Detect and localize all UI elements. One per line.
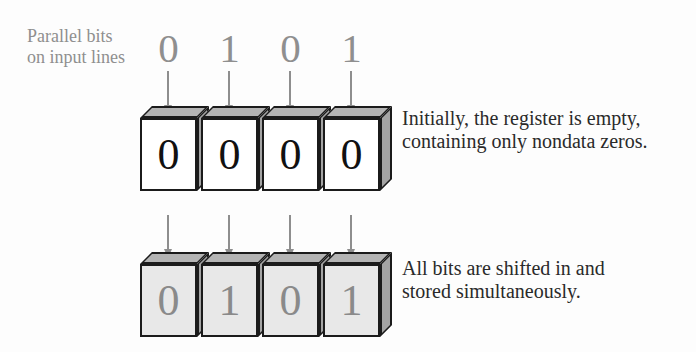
input-bit-0: 0 <box>148 28 189 69</box>
input-bit-1: 1 <box>209 28 250 69</box>
cube-side-face <box>380 252 392 337</box>
register-stored-cell-0-value: 0 <box>140 264 197 337</box>
register-stored-cell-3: 1 <box>323 252 392 337</box>
register-stored-cell-2: 0 <box>262 252 331 337</box>
register-empty-cell-1-value: 0 <box>201 118 258 191</box>
arrow-shaft <box>228 71 230 105</box>
caption-register-stored-line2: stored simultaneously. <box>402 280 605 303</box>
arrow-shaft <box>350 71 352 105</box>
caption-register-empty-line1: Initially, the register is empty, <box>402 107 648 130</box>
register-empty-cell-2: 0 <box>262 106 331 191</box>
caption-register-empty: Initially, the register is empty, contai… <box>402 107 648 153</box>
register-stored-cell-1: 1 <box>201 252 270 337</box>
caption-register-stored-line1: All bits are shifted in and <box>402 257 605 280</box>
register-empty-cell-3: 0 <box>323 106 392 191</box>
caption-register-stored: All bits are shifted in and stored simul… <box>402 257 605 303</box>
arrow-shaft <box>167 71 169 105</box>
parallel-load-shift-register-diagram: Parallel bits on input lines 0 1 0 1 0 0… <box>0 0 696 352</box>
register-empty-cell-3-value: 0 <box>323 118 380 191</box>
register-stored-cell-3-value: 1 <box>323 264 380 337</box>
caption-register-empty-line2: containing only nondata zeros. <box>402 130 648 153</box>
register-stored-cell-1-value: 1 <box>201 264 258 337</box>
input-lines-label: Parallel bits on input lines <box>27 26 125 68</box>
register-empty-cell-0-value: 0 <box>140 118 197 191</box>
input-bit-2: 0 <box>270 28 311 69</box>
arrow-shaft <box>228 215 230 249</box>
cube-side-face <box>380 106 392 191</box>
arrow-shaft <box>289 215 291 249</box>
arrow-shaft <box>289 71 291 105</box>
input-bit-3: 1 <box>331 28 372 69</box>
register-empty-cell-2-value: 0 <box>262 118 319 191</box>
input-lines-label-line1: Parallel bits <box>27 26 125 47</box>
register-stored-cell-2-value: 0 <box>262 264 319 337</box>
register-stored-cell-0: 0 <box>140 252 209 337</box>
arrow-shaft <box>350 215 352 249</box>
register-empty-cell-1: 0 <box>201 106 270 191</box>
arrow-shaft <box>167 215 169 249</box>
register-empty-cell-0: 0 <box>140 106 209 191</box>
input-lines-label-line2: on input lines <box>27 47 125 68</box>
